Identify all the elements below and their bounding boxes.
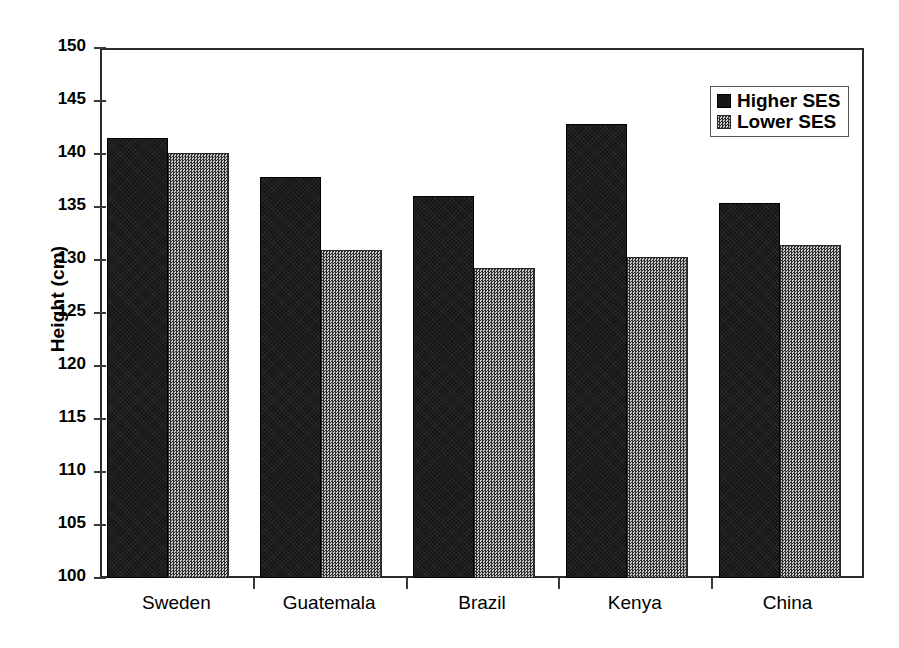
x-tick-label-brazil: Brazil [406,592,559,614]
y-tick-mark [94,100,106,102]
legend-label-higher-ses: Higher SES [737,91,840,110]
x-tick-mark [558,578,560,589]
x-tick-label-kenya: Kenya [558,592,711,614]
y-axis-title: Height (cm) [47,189,69,409]
legend-swatch-higher-ses [717,94,731,108]
legend-swatch-lower-ses [717,115,731,129]
y-tick-mark [94,259,106,261]
x-tick-label-guatemala: Guatemala [253,592,406,614]
x-tick-mark [253,578,255,589]
y-tick-label: 115 [20,407,86,427]
legend-item-higher-ses: Higher SES [717,90,840,111]
y-tick-label: 150 [20,36,86,56]
x-tick-mark [711,578,713,589]
y-tick-mark [94,471,106,473]
y-tick-label: 135 [20,195,86,215]
y-tick-label: 105 [20,513,86,533]
y-tick-label: 120 [20,354,86,374]
x-tick-label-sweden: Sweden [100,592,253,614]
legend-label-lower-ses: Lower SES [737,112,836,131]
y-tick-label: 130 [20,248,86,268]
legend-item-lower-ses: Lower SES [717,111,840,132]
y-tick-label: 100 [20,566,86,586]
y-tick-mark [94,524,106,526]
y-tick-label: 145 [20,89,86,109]
y-tick-mark [94,365,106,367]
y-tick-mark [94,418,106,420]
y-tick-label: 110 [20,460,86,480]
y-tick-mark [94,153,106,155]
legend: Higher SES Lower SES [710,86,849,137]
y-tick-label: 125 [20,301,86,321]
y-tick-mark [94,47,106,49]
y-tick-mark [94,577,106,579]
bar-chart: Height (cm) 1501451401351301251201151101… [0,0,899,648]
y-tick-mark [94,206,106,208]
x-tick-mark [406,578,408,589]
y-tick-mark [94,312,106,314]
y-tick-label: 140 [20,142,86,162]
x-tick-label-china: China [711,592,864,614]
